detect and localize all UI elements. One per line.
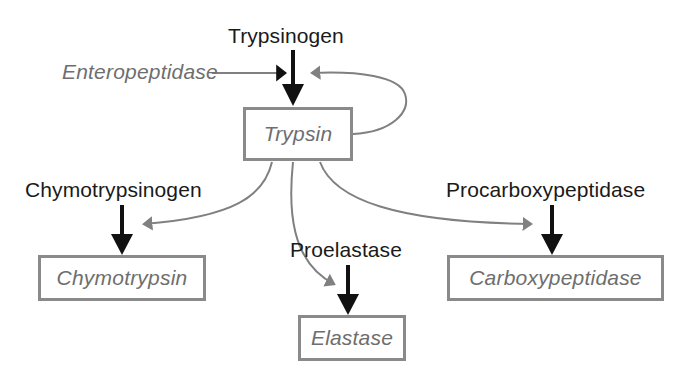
node-trypsin: Trypsin <box>243 107 353 161</box>
enzyme-activation-diagram: Trypsinogen Enteropeptidase Chymotrypsin… <box>0 0 693 386</box>
label-enteropeptidase: Enteropeptidase <box>62 60 218 84</box>
label-procarboxypeptidase: Procarboxypeptidase <box>446 178 645 202</box>
node-elastase-label: Elastase <box>311 326 393 350</box>
arrow-chymotrypsinogen-to-chymotrypsin <box>111 205 133 255</box>
label-proelastase: Proelastase <box>290 238 402 262</box>
node-chymotrypsin-label: Chymotrypsin <box>57 266 188 290</box>
node-elastase: Elastase <box>298 315 406 361</box>
node-carboxypeptidase: Carboxypeptidase <box>447 255 664 301</box>
arrow-proelastase-to-elastase <box>337 265 359 315</box>
arrow-trypsinogen-to-trypsin <box>282 50 304 106</box>
label-trypsinogen: Trypsinogen <box>228 24 344 48</box>
node-chymotrypsin: Chymotrypsin <box>38 255 206 301</box>
arrow-trypsin-catalysis-proelastase <box>291 162 334 284</box>
label-chymotrypsinogen: Chymotrypsinogen <box>25 178 202 202</box>
node-carboxypeptidase-label: Carboxypeptidase <box>469 266 641 290</box>
node-trypsin-label: Trypsin <box>264 122 333 146</box>
arrow-procarboxypeptidase-to-carboxypeptidase <box>541 205 563 255</box>
